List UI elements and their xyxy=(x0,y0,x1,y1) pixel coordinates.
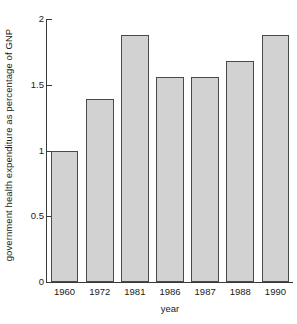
x-axis-tick-label: 1981 xyxy=(117,286,152,298)
bar xyxy=(226,61,254,282)
x-axis-tick-label: 1972 xyxy=(82,286,117,298)
bar xyxy=(51,151,79,283)
x-axis-tick-label: 1986 xyxy=(152,286,187,298)
y-axis-tick-label: 1 xyxy=(4,146,44,156)
bar xyxy=(262,35,290,282)
y-axis-tick-label: 0 xyxy=(4,277,44,287)
y-axis-tick-label: 1.5 xyxy=(4,80,44,90)
y-axis-tick-label-wrap: 0.5 xyxy=(0,211,44,221)
x-axis-tick-label: 1988 xyxy=(223,286,258,298)
x-axis-tick-label: 1960 xyxy=(47,286,82,298)
bar xyxy=(191,77,219,282)
bar xyxy=(86,99,114,282)
y-axis-tick-label-wrap: 1 xyxy=(0,146,44,156)
bar xyxy=(156,77,184,282)
bar xyxy=(121,35,149,282)
plot-area xyxy=(47,19,293,282)
bar-chart: government health expenditure as percent… xyxy=(0,0,297,324)
y-axis-tick-label-wrap: 1.5 xyxy=(0,80,44,90)
y-axis-tick-label-wrap: 0 xyxy=(0,277,44,287)
x-axis-tick-label: 1987 xyxy=(188,286,223,298)
y-axis-tick xyxy=(47,282,52,283)
x-axis-title: year xyxy=(47,303,293,314)
y-axis-tick-label-wrap: 2 xyxy=(0,14,44,24)
y-axis-tick-label: 2 xyxy=(4,14,44,24)
x-axis-tick-label: 1990 xyxy=(258,286,293,298)
y-axis-tick-label: 0.5 xyxy=(4,211,44,221)
x-axis-line xyxy=(47,282,293,283)
